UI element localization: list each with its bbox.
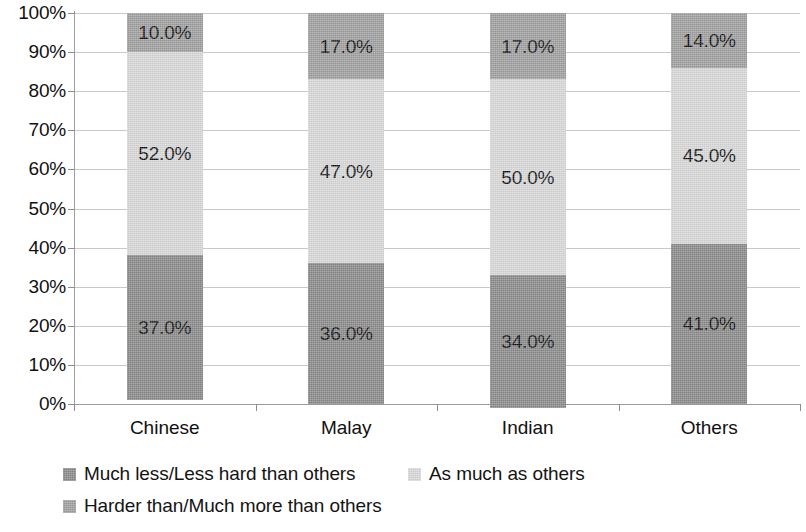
legend-entry[interactable]: Much less/Less hard than others (63, 463, 356, 485)
legend-color-swatch (63, 500, 76, 513)
x-axis-tick-mark (619, 404, 620, 411)
y-axis-tick-label: 0% (4, 394, 66, 413)
y-axis-tick-mark (68, 404, 75, 405)
y-axis-tick-label: 70% (4, 120, 66, 139)
y-axis-tick-label: 10% (4, 355, 66, 374)
bar-segment-value-label: 50.0% (501, 168, 554, 187)
bar-segment-value-label: 14.0% (683, 31, 736, 50)
bar-malay[interactable]: 17.0%47.0%36.0% (308, 13, 384, 404)
bar-segment-value-label: 10.0% (138, 23, 191, 42)
y-axis-tick-label: 20% (4, 316, 66, 335)
bar-segment[interactable]: 17.0% (490, 13, 566, 79)
bar-segment-value-label: 47.0% (320, 162, 373, 181)
legend-color-swatch (408, 468, 421, 481)
y-axis-tick-mark (68, 326, 75, 327)
bar-segment[interactable]: 36.0% (308, 263, 384, 404)
y-axis-tick-mark (68, 130, 75, 131)
x-axis-category-label: Malay (266, 417, 426, 439)
y-axis-tick-label: 100% (4, 3, 66, 22)
legend-row: Harder than/Much more than others (63, 495, 803, 527)
bar-segment-value-label: 34.0% (501, 332, 554, 351)
bar-segment[interactable]: 10.0% (127, 13, 203, 52)
bar-segment[interactable]: 37.0% (127, 255, 203, 400)
paper-grain-texture (63, 468, 76, 481)
y-axis-tick-label: 40% (4, 238, 66, 257)
bar-segment[interactable]: 45.0% (671, 68, 747, 244)
x-axis-tick-mark (437, 404, 438, 411)
y-axis-tick-mark (68, 169, 75, 170)
bar-segment-value-label: 36.0% (320, 324, 373, 343)
bar-segment-value-label: 45.0% (683, 146, 736, 165)
chart-legend: Much less/Less hard than othersAs much a… (63, 463, 803, 527)
bar-segment[interactable]: 47.0% (308, 79, 384, 263)
stacked-bar-chart: 100%90%80%70%60%50%40%30%20%10%0% 10.0%5… (0, 0, 806, 532)
legend-label: As much as others (429, 463, 585, 485)
bar-segment-value-label: 52.0% (138, 144, 191, 163)
y-axis-labels: 100%90%80%70%60%50%40%30%20%10%0% (0, 0, 66, 420)
x-axis-category-label: Indian (448, 417, 608, 439)
y-axis-tick-mark (68, 52, 75, 53)
bar-segment-value-label: 41.0% (683, 314, 736, 333)
x-axis-tick-mark (800, 404, 801, 411)
legend-row: Much less/Less hard than othersAs much a… (63, 463, 803, 495)
y-axis-tick-mark (68, 365, 75, 366)
y-axis-tick-mark (68, 209, 75, 210)
y-axis-tick-label: 60% (4, 159, 66, 178)
legend-label: Much less/Less hard than others (84, 463, 356, 485)
bar-segment-value-label: 37.0% (138, 318, 191, 337)
x-axis-category-label: Chinese (85, 417, 245, 439)
plot-area: 10.0%52.0%37.0%17.0%47.0%36.0%17.0%50.0%… (74, 13, 800, 404)
bar-segment[interactable]: 50.0% (490, 79, 566, 275)
bar-indian[interactable]: 17.0%50.0%34.0% (490, 13, 566, 404)
legend-entry[interactable]: Harder than/Much more than others (63, 495, 382, 517)
y-axis-tick-mark (68, 13, 75, 14)
y-axis-tick-label: 50% (4, 199, 66, 218)
y-axis-tick-label: 80% (4, 81, 66, 100)
bar-segment[interactable]: 41.0% (671, 244, 747, 404)
y-axis-tick-mark (68, 91, 75, 92)
legend-label: Harder than/Much more than others (84, 495, 382, 517)
bar-others[interactable]: 14.0%45.0%41.0% (671, 13, 747, 404)
y-axis-tick-mark (68, 287, 75, 288)
bar-segment[interactable]: 34.0% (490, 275, 566, 408)
paper-grain-texture (63, 500, 76, 513)
bar-segment-value-label: 17.0% (501, 37, 554, 56)
y-axis-tick-label: 90% (4, 42, 66, 61)
legend-entry[interactable]: As much as others (408, 463, 585, 485)
paper-grain-texture (408, 468, 421, 481)
y-axis-tick-label: 30% (4, 277, 66, 296)
bar-segment[interactable]: 17.0% (308, 13, 384, 79)
bar-segment[interactable]: 52.0% (127, 52, 203, 255)
bar-segment-value-label: 17.0% (320, 37, 373, 56)
x-axis-tick-mark (74, 404, 75, 411)
x-axis-category-label: Others (629, 417, 789, 439)
y-axis-tick-mark (68, 248, 75, 249)
legend-color-swatch (63, 468, 76, 481)
bar-chinese[interactable]: 10.0%52.0%37.0% (127, 13, 203, 404)
x-axis-tick-mark (256, 404, 257, 411)
bar-segment[interactable]: 14.0% (671, 13, 747, 68)
